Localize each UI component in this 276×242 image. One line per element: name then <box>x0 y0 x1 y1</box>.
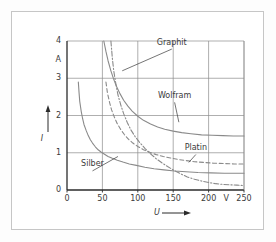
x-axis-unit-label: V <box>224 195 229 203</box>
curve-wolfram <box>104 41 244 136</box>
chart-figure: 01234A050100150200250VIUGraphitWolframPl… <box>0 0 276 242</box>
y-tick-label-0: 0 <box>56 186 61 194</box>
curve-label-wolfram: Wolfram <box>158 92 191 100</box>
leader-line-graphit <box>122 49 172 71</box>
x-tick-label-50: 50 <box>97 195 107 203</box>
y-tick-label-3: 3 <box>56 74 61 82</box>
y-tick-label-4: 4 <box>56 37 61 45</box>
x-tick-label-100: 100 <box>130 195 145 203</box>
y-axis-symbol-label: I <box>41 135 43 143</box>
x-tick-label-150: 150 <box>166 195 181 203</box>
curve-label-silber: Silber <box>81 160 104 168</box>
y-axis-unit-label: A <box>56 56 61 64</box>
curve-label-platin: Platin <box>185 144 207 152</box>
x-tick-label-200: 200 <box>201 195 216 203</box>
x-tick-label-0: 0 <box>64 195 69 203</box>
x-axis-symbol-label: U <box>154 209 160 217</box>
y-tick-label-1: 1 <box>56 149 61 157</box>
y-tick-label-2: 2 <box>56 112 61 120</box>
x-tick-label-250: 250 <box>236 195 251 203</box>
curve-label-graphit: Graphit <box>157 39 187 47</box>
current-voltage-plot <box>0 0 276 242</box>
leader-line-wolfram <box>175 102 179 122</box>
y-axis-arrow-head <box>46 105 51 112</box>
x-axis-arrow-head <box>184 211 191 216</box>
axis-lines <box>67 41 244 193</box>
